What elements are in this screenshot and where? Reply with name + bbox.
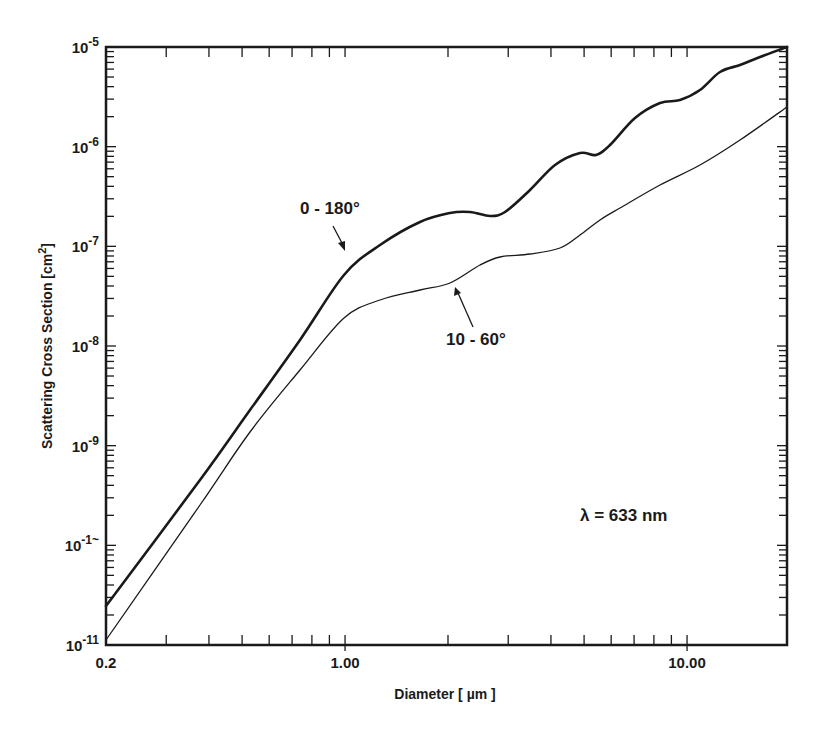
- x-tick-label: 0.2: [96, 654, 117, 671]
- x-axis-title: Diameter [ µm ]: [394, 686, 495, 702]
- y-tick-label: 10-5: [72, 35, 100, 56]
- curve-0-180-deg: [106, 47, 787, 606]
- axis-minor-ticks: [106, 47, 787, 651]
- arrowhead-icon: [338, 241, 345, 251]
- x-axis-tick-labels: 0.21.0010.00: [96, 654, 706, 671]
- annotation-10-60: 10 - 60°: [446, 330, 506, 349]
- curve-10-60-deg: [106, 107, 787, 640]
- annotation-arrow-10-60: [458, 293, 473, 327]
- x-tick-label: 1.00: [330, 654, 359, 671]
- y-tick-label: 10-11: [66, 633, 100, 654]
- x-tick-label: 10.00: [668, 654, 706, 671]
- y-tick-label: 10-7: [72, 234, 100, 255]
- y-tick-label: 10-8: [72, 334, 100, 355]
- wavelength-annotation: λ = 633 nm: [580, 506, 667, 525]
- y-tick-label: 10-9: [72, 434, 100, 455]
- y-axis-title: Scattering Cross Section [cm2]: [36, 243, 55, 449]
- annotation-0-180: 0 - 180°: [300, 199, 360, 218]
- y-axis-tick-labels: 10-510-610-710-810-910-1~10-11: [65, 35, 100, 654]
- y-tick-label: 10-6: [72, 135, 100, 156]
- arrowhead-icon: [454, 287, 461, 296]
- scattering-cross-section-chart: 10-510-610-710-810-910-1~10-11 0.21.0010…: [0, 0, 833, 742]
- y-tick-label: 10-1~: [65, 533, 99, 554]
